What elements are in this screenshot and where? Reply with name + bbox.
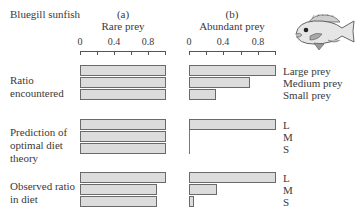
bar-b-encountered-medium — [189, 77, 250, 88]
legend-observed: L M S — [283, 172, 293, 208]
bar-b-observed-small — [189, 196, 194, 207]
legend-small-prey: Small prey — [283, 89, 343, 101]
row-label-prediction: Prediction of optimal diet theory — [10, 126, 85, 165]
tick-label: 0.8 — [142, 36, 155, 47]
bar-a-observed-medium — [80, 184, 157, 195]
bar-b-observed-medium — [189, 184, 217, 195]
legend-m: M — [283, 184, 293, 196]
legend-s: S — [283, 196, 293, 208]
tick-label: 0.4 — [108, 36, 121, 47]
legend-l: L — [283, 172, 293, 184]
bar-a-prediction-small — [80, 143, 166, 154]
tick-label: 0.4 — [217, 36, 230, 47]
bar-a-prediction-large — [80, 119, 166, 130]
legend-m: M — [283, 131, 293, 143]
bar-a-encountered-medium — [80, 77, 166, 88]
x-axis-a: 0 0.4 0.8 — [80, 44, 166, 54]
panel-b-subtitle: Abundant prey — [187, 20, 277, 33]
tick-label: 0 — [187, 36, 192, 47]
bar-a-encountered-large — [80, 65, 166, 76]
row-label-ratio-encountered: Ratio encountered — [10, 74, 85, 100]
legend-medium-prey: Medium prey — [283, 77, 343, 89]
bar-b-observed-large — [189, 172, 276, 183]
legend-large-prey: Large prey — [283, 65, 343, 77]
row-label-observed: Observed ratio in diet — [10, 180, 85, 206]
bar-a-prediction-medium — [80, 131, 166, 142]
legend-s: S — [283, 143, 293, 155]
bluegill-fish-icon — [292, 10, 360, 52]
tick-label: 0.8 — [252, 36, 265, 47]
bar-a-observed-small — [80, 196, 157, 207]
bar-b-encountered-large — [189, 65, 276, 76]
tick-label: 0 — [78, 36, 83, 47]
x-axis-b: 0 0.4 0.8 — [189, 44, 276, 54]
figure-title: Bluegill sunfish — [10, 8, 80, 21]
bar-a-observed-large — [80, 172, 166, 183]
legend-l: L — [283, 119, 293, 131]
legend-prediction: L M S — [283, 119, 293, 155]
bar-b-encountered-small — [189, 89, 216, 100]
legend-encountered: Large prey Medium prey Small prey — [283, 65, 343, 101]
bar-b-prediction-large — [189, 119, 276, 130]
panel-a-subtitle: Rare prey — [78, 20, 168, 33]
bar-b-prediction-baseline — [189, 130, 190, 154]
bar-a-encountered-small — [80, 89, 166, 100]
